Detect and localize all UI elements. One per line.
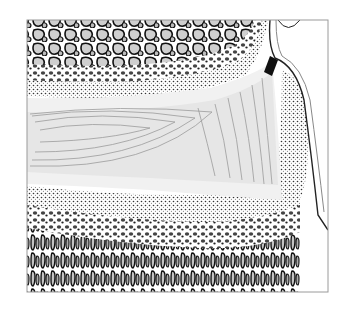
bone-cross-section-illustration xyxy=(0,0,350,309)
